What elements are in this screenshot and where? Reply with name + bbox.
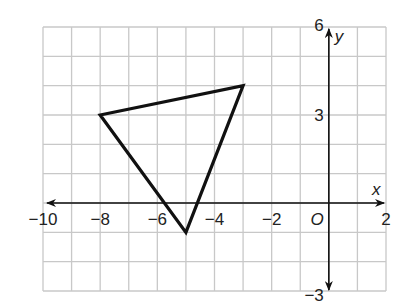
y-axis-label: y <box>334 27 345 46</box>
y-tick-label: 3 <box>314 106 323 125</box>
x-tick-label: −2 <box>262 210 281 229</box>
tick-labels: −10−8−6−4−2263−3Oxy <box>29 16 391 304</box>
x-tick-label: −6 <box>148 210 167 229</box>
x-tick-label: 2 <box>381 210 390 229</box>
x-tick-label: −10 <box>29 210 58 229</box>
y-tick-label: −3 <box>304 286 323 304</box>
x-axis-label: x <box>371 180 381 199</box>
origin-label: O <box>311 210 324 229</box>
x-tick-label: −8 <box>90 210 109 229</box>
y-tick-label: 6 <box>314 16 323 35</box>
x-tick-label: −4 <box>205 210 224 229</box>
coordinate-plane: −10−8−6−4−2263−3Oxy <box>0 0 394 304</box>
